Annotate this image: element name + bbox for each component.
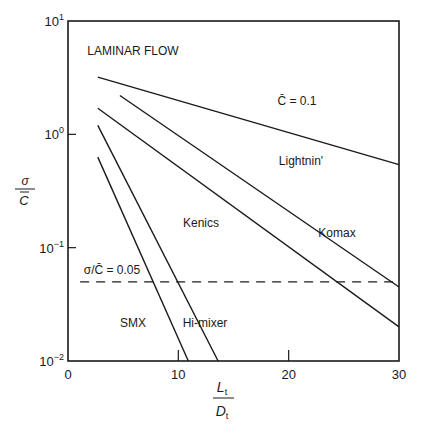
annotation-label: Komax — [318, 226, 355, 240]
x-tick-label: 0 — [64, 367, 71, 382]
plot-frame — [68, 21, 399, 361]
series-smx — [98, 157, 189, 361]
annotation-label: Lightnin' — [279, 154, 323, 168]
y-axis-label: σ C — [15, 174, 35, 208]
x-label-numerator: Lt — [217, 379, 228, 397]
series-kenics — [98, 108, 399, 327]
y-tick-label: 101 — [45, 12, 64, 29]
y-tick-label: 100 — [45, 125, 64, 142]
y-tick-label: 10−2 — [39, 352, 64, 369]
annotation-label: Kenics — [183, 216, 219, 230]
annotation-label: SMX — [120, 316, 146, 330]
x-label-denominator: Dt — [216, 403, 229, 421]
y-label-numerator: σ — [21, 174, 29, 188]
x-tick-label: 10 — [171, 367, 185, 382]
annotation-label: C̄ = 0.1 — [277, 94, 316, 108]
y-axis-ticks: 10110010−110−2 — [39, 12, 76, 369]
annotation-label: LAMINAR FLOW — [87, 44, 179, 58]
y-label-denominator: C — [19, 193, 29, 208]
x-tick-label: 30 — [392, 367, 406, 382]
annotation-label: Hi-mixer — [183, 316, 228, 330]
series-lightnin — [98, 77, 399, 165]
reference-line-label: σ/C̄ = 0.05 — [84, 263, 141, 277]
x-axis-ticks: 0102030 — [64, 350, 406, 382]
y-tick-label: 10−1 — [39, 239, 64, 256]
annotations: LAMINAR FLOWC̄ = 0.1Lightnin'KenicsKomax… — [84, 44, 356, 330]
x-axis-label: Lt Dt — [213, 379, 234, 421]
chart: 10110010−110−2 0102030 LAMINAR FLOWC̄ = … — [0, 0, 423, 429]
x-tick-label: 20 — [281, 367, 295, 382]
